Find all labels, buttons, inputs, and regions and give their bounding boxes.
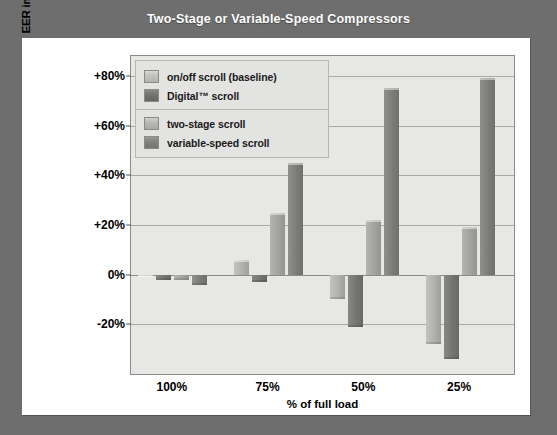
gridline bbox=[131, 225, 514, 226]
bar bbox=[462, 227, 477, 274]
x-axis-tick-label: 100% bbox=[157, 380, 188, 394]
legend-swatch-icon bbox=[144, 136, 159, 149]
bar-highlight bbox=[174, 278, 189, 280]
legend-item[interactable]: variable-speed scroll bbox=[136, 133, 328, 152]
legend-item-label: on/off scroll (baseline) bbox=[167, 71, 277, 83]
bar-face bbox=[480, 78, 495, 274]
bar-highlight bbox=[288, 163, 303, 165]
bar-face bbox=[288, 163, 303, 275]
y-axis-tick-mark bbox=[126, 75, 131, 76]
bar-face bbox=[444, 275, 459, 359]
bar bbox=[426, 275, 441, 345]
bar bbox=[366, 220, 381, 275]
legend-item-label: two-stage scroll bbox=[167, 118, 245, 130]
bar-face bbox=[270, 213, 285, 275]
gridline bbox=[131, 175, 514, 176]
bar-highlight bbox=[330, 297, 345, 299]
y-axis-tick-mark bbox=[126, 125, 131, 126]
bar-highlight bbox=[426, 342, 441, 344]
bar-highlight bbox=[462, 227, 477, 229]
bar bbox=[138, 275, 153, 276]
bar-highlight bbox=[348, 325, 363, 327]
bar-face bbox=[234, 260, 249, 275]
bar-highlight bbox=[156, 278, 171, 280]
y-axis-tick-mark bbox=[126, 175, 131, 176]
x-axis-tick-label: 75% bbox=[256, 380, 280, 394]
legend-swatch-icon bbox=[144, 70, 159, 83]
bar bbox=[288, 163, 303, 275]
bar-highlight bbox=[192, 283, 207, 285]
bar-face bbox=[426, 275, 441, 345]
bar-face bbox=[462, 227, 477, 274]
legend-group-baseline: on/off scroll (baseline) Digital™ scroll bbox=[136, 65, 328, 107]
y-axis-tick-label: +40% bbox=[94, 168, 125, 182]
bar bbox=[192, 275, 207, 285]
bar bbox=[270, 213, 285, 275]
bar-highlight bbox=[270, 213, 285, 215]
y-axis-tick-label: 0% bbox=[108, 268, 125, 282]
y-axis-tick-label: +80% bbox=[94, 69, 125, 83]
legend-swatch-icon bbox=[144, 89, 159, 102]
y-axis-tick-mark bbox=[126, 324, 131, 325]
legend-item[interactable]: two-stage scroll bbox=[136, 114, 328, 133]
bar-highlight bbox=[366, 220, 381, 222]
bar bbox=[384, 88, 399, 274]
bar-highlight bbox=[444, 357, 459, 359]
legend-group-advanced: two-stage scroll variable-speed scroll bbox=[136, 109, 328, 154]
legend-swatch-icon bbox=[144, 117, 159, 130]
bar bbox=[252, 275, 267, 282]
bar bbox=[444, 275, 459, 359]
y-axis-tick-label: +60% bbox=[94, 119, 125, 133]
bar-face bbox=[330, 275, 345, 300]
y-axis-title: EER improvement, % of baseline at full l… bbox=[20, 0, 38, 58]
legend-item-label: Digital™ scroll bbox=[167, 90, 239, 102]
x-axis-tick-label: 25% bbox=[447, 380, 471, 394]
bar-highlight bbox=[480, 78, 495, 80]
y-axis-tick-label: -20% bbox=[97, 317, 125, 331]
bar bbox=[234, 260, 249, 275]
bar bbox=[156, 275, 171, 280]
bar-face bbox=[348, 275, 363, 327]
bar-highlight bbox=[252, 280, 267, 282]
bar bbox=[330, 275, 345, 300]
bar-highlight bbox=[384, 88, 399, 90]
bar-face bbox=[366, 220, 381, 275]
y-axis-tick-label: +20% bbox=[94, 218, 125, 232]
chart-card: EER improvement, % of baseline at full l… bbox=[22, 38, 530, 415]
bar bbox=[348, 275, 363, 327]
chart-title: Two-Stage or Variable-Speed Compressors bbox=[0, 0, 557, 38]
legend-item[interactable]: Digital™ scroll bbox=[136, 86, 328, 105]
legend-item-label: variable-speed scroll bbox=[167, 137, 269, 149]
bar bbox=[174, 275, 189, 280]
x-axis-tick-label: 50% bbox=[351, 380, 375, 394]
bar bbox=[480, 78, 495, 274]
y-axis-tick-mark bbox=[126, 224, 131, 225]
chart-legend: on/off scroll (baseline) Digital™ scroll… bbox=[135, 60, 329, 158]
x-axis-title: % of full load bbox=[130, 398, 515, 410]
legend-item[interactable]: on/off scroll (baseline) bbox=[136, 67, 328, 86]
bar-highlight bbox=[234, 260, 249, 262]
y-axis-tick-mark bbox=[126, 274, 131, 275]
bar-highlight bbox=[138, 275, 153, 277]
bar-face bbox=[384, 88, 399, 274]
